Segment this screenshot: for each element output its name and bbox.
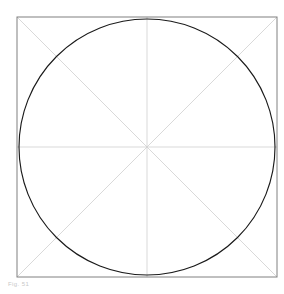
figure-root: Fig. 51 bbox=[0, 0, 284, 294]
figure-caption: Fig. 51 bbox=[8, 281, 29, 288]
rosette-drawing bbox=[0, 0, 284, 294]
construction-layer bbox=[17, 17, 277, 277]
